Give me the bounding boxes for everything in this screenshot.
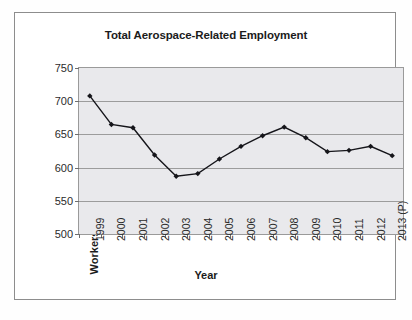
data-point-marker xyxy=(368,144,373,149)
y-axis-label: 750 xyxy=(55,62,73,74)
x-axis-tick xyxy=(79,234,80,238)
series-line xyxy=(90,96,392,176)
chart-frame: Total Aerospace-Related Employment Worke… xyxy=(14,12,396,300)
chart-screenshot: Total Aerospace-Related Employment Worke… xyxy=(0,0,412,320)
y-axis-label: 550 xyxy=(55,195,73,207)
data-point-marker xyxy=(390,153,395,158)
data-series-layer xyxy=(79,68,403,234)
plot-area: 5005506006507007501999200020012002200320… xyxy=(78,67,404,235)
x-axis-title: Year xyxy=(15,269,397,281)
chart-title: Total Aerospace-Related Employment xyxy=(15,29,397,41)
y-axis-label: 650 xyxy=(55,128,73,140)
data-point-marker xyxy=(282,124,287,129)
data-point-marker xyxy=(260,133,265,138)
y-axis-label: 700 xyxy=(55,95,73,107)
y-axis-label: 500 xyxy=(55,228,73,240)
data-point-marker xyxy=(346,148,351,153)
y-axis-label: 600 xyxy=(55,162,73,174)
